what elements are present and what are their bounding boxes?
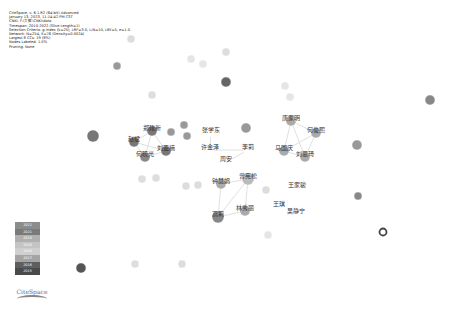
node-label: 林秀丽 xyxy=(236,204,254,212)
network-node[interactable] xyxy=(127,35,135,43)
network-node[interactable] xyxy=(138,175,146,183)
node-label: 钟慧娟 xyxy=(212,177,230,185)
node-label: 吴静宁 xyxy=(287,207,305,215)
network-node[interactable] xyxy=(194,181,202,189)
logo-arc-icon xyxy=(17,295,47,303)
node-label: 刘亚楠 xyxy=(157,144,175,152)
network-canvas[interactable]: 郑建新赵斌何晓光刘亚楠张学东许金泽李莉周安唐家明何俊熙马国庆刘思琦曾宪松钟慧娟林… xyxy=(0,0,452,315)
network-node[interactable] xyxy=(87,130,99,142)
node-label: 曾宪松 xyxy=(239,172,257,180)
legend-year-2016: 2016 xyxy=(15,262,40,269)
network-node[interactable] xyxy=(264,231,272,239)
node-label: 王琪 xyxy=(273,200,285,208)
legend-year-2019: 2019 xyxy=(15,242,40,249)
network-node[interactable] xyxy=(76,263,86,273)
network-node[interactable] xyxy=(199,60,207,68)
network-node[interactable] xyxy=(148,91,156,99)
legend-year-2022: 2022 xyxy=(15,222,40,229)
network-node[interactable] xyxy=(183,132,191,140)
node-label: 唐家明 xyxy=(282,114,300,122)
network-node[interactable] xyxy=(152,174,160,182)
network-node[interactable] xyxy=(222,48,230,56)
node-label: 刘思琦 xyxy=(296,150,314,157)
legend-year-2015: 2015 xyxy=(15,268,40,275)
logo-text: CiteSpace xyxy=(12,288,52,295)
network-node[interactable] xyxy=(167,128,175,136)
node-label: 赵斌 xyxy=(128,135,140,143)
network-node[interactable] xyxy=(281,82,289,90)
node-label: 马国庆 xyxy=(275,144,293,152)
legend-year-2018: 2018 xyxy=(15,248,40,255)
node-label: 高莉 xyxy=(212,210,224,218)
network-node[interactable] xyxy=(241,123,251,133)
network-node[interactable] xyxy=(180,121,188,129)
legend-year-2017: 2017 xyxy=(15,255,40,262)
node-label: 郑建新 xyxy=(143,124,161,132)
legend-year-2020: 2020 xyxy=(15,235,40,242)
network-node[interactable] xyxy=(286,93,294,101)
network-node[interactable] xyxy=(380,229,387,236)
node-label: 何俊熙 xyxy=(307,126,325,134)
node-label: 张学东 xyxy=(202,126,220,134)
legend-year-2021: 2021 xyxy=(15,229,40,236)
network-node[interactable] xyxy=(131,260,139,268)
node-label: 何晓光 xyxy=(136,150,154,158)
node-label: 李莉 xyxy=(242,143,254,150)
network-node[interactable] xyxy=(354,192,362,200)
network-node[interactable] xyxy=(425,95,435,105)
node-label: 王家骏 xyxy=(288,181,306,189)
network-node[interactable] xyxy=(178,260,186,268)
timeline-legend: 20222021202020192018201720162015 xyxy=(15,222,40,275)
network-node[interactable] xyxy=(113,62,121,70)
citespace-logo: CiteSpace xyxy=(12,288,52,303)
node-label: 周安 xyxy=(220,155,232,163)
network-node[interactable] xyxy=(262,186,270,194)
network-node[interactable] xyxy=(352,140,362,150)
network-node[interactable] xyxy=(182,182,190,190)
node-label: 许金泽 xyxy=(201,143,219,151)
network-node[interactable] xyxy=(187,55,195,63)
network-node[interactable] xyxy=(221,77,231,87)
